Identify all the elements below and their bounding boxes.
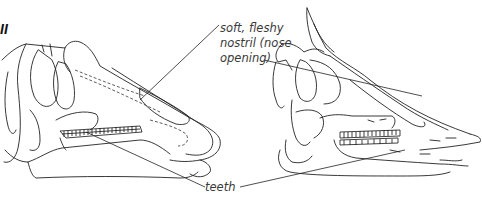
- illustration: II: [0, 0, 482, 198]
- nostril-label-line2: nostril (nose: [220, 36, 291, 51]
- teeth-label: teeth: [205, 180, 235, 195]
- nostril-label-line1: soft, fleshy: [220, 21, 291, 36]
- right-skull: [273, 8, 481, 176]
- nostril-label: soft, fleshy nostril (nose opening): [220, 21, 291, 66]
- teeth-leader-right: [240, 150, 405, 187]
- nostril-leader-left: [140, 25, 219, 100]
- nostril-label-line3: opening): [220, 51, 291, 66]
- left-skull: [2, 41, 220, 178]
